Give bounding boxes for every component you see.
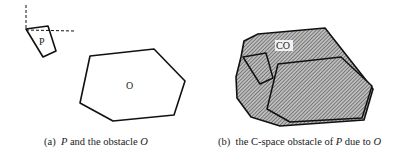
caption-a: (a) P and the obstacle O	[44, 136, 148, 147]
panel-a: P O	[26, 5, 185, 121]
figure-canvas: P O CO	[0, 0, 396, 153]
caption-b-prefix: (b) the C-space obstacle of	[218, 136, 336, 147]
caption-a-prefix: (a)	[44, 136, 61, 147]
obstacle-label: O	[126, 80, 133, 91]
caption-a-middle: and the obstacle	[67, 136, 140, 147]
robot-label: P	[39, 36, 45, 47]
caption-b-var-o: O	[373, 136, 381, 147]
panel-b: CO	[236, 28, 373, 126]
caption-b: (b) the C-space obstacle of P due to O	[218, 136, 381, 147]
caption-b-middle: due to	[342, 136, 373, 147]
cspace-label: CO	[276, 40, 290, 51]
caption-a-var-o: O	[140, 136, 148, 147]
